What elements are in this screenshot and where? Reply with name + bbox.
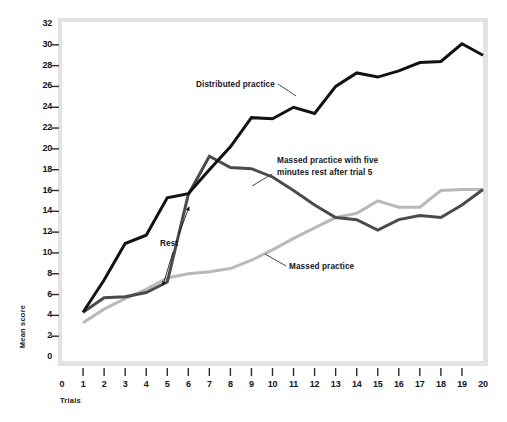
series-line	[83, 156, 483, 312]
x-axis-title: Trials	[60, 396, 81, 405]
leader-line	[252, 174, 272, 186]
annotation-leader-lines	[163, 84, 296, 285]
chart-container: 02468101214161820222426283032 0123456789…	[0, 0, 507, 422]
distributed-practice-label: Distributed practice	[196, 79, 275, 91]
series-line	[83, 44, 483, 312]
massed-practice-label: Massed practice	[289, 261, 354, 273]
massed-practice-rest-label: Massed practice with five minutes rest a…	[277, 155, 378, 178]
plot-svg	[0, 0, 507, 422]
series-line	[83, 189, 483, 322]
y-axis-title: Mean score	[18, 287, 27, 367]
rest-label: Rest	[160, 238, 178, 250]
tick-marks	[51, 45, 462, 376]
leader-line	[278, 84, 296, 96]
series-lines	[83, 44, 483, 323]
leader-line	[265, 254, 286, 266]
